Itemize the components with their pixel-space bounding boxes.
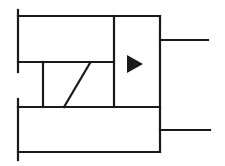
arrow-right-icon [127,55,143,73]
schematic-diagram [0,0,225,166]
diagonal-link [64,63,90,107]
